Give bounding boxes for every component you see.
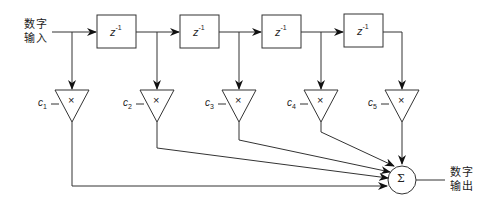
output-label-line1: 数字 xyxy=(450,166,474,180)
sigma-icon: Σ xyxy=(397,172,405,185)
delay-label-2: z-1 xyxy=(193,24,205,38)
delay-label-1: z-1 xyxy=(110,24,122,38)
input-label: 数字 输入 xyxy=(24,18,48,46)
multiply-icon-1: × xyxy=(68,94,74,106)
multiply-icon-5: × xyxy=(398,94,404,106)
output-label: 数字 输出 xyxy=(450,166,474,194)
sum-line-1 xyxy=(72,122,387,186)
coef-label-4: c4 xyxy=(287,97,296,110)
multiply-icon-2: × xyxy=(153,94,159,106)
multiply-icon-4: × xyxy=(317,94,323,106)
coef-label-2: c2 xyxy=(123,97,132,110)
coef-label-3: c3 xyxy=(205,97,214,110)
tap-line-5 xyxy=(383,32,402,89)
input-label-line2: 输入 xyxy=(24,32,48,46)
coef-label-5: c5 xyxy=(368,97,377,110)
sum-line-3 xyxy=(239,122,390,172)
delay-label-3: z-1 xyxy=(275,24,287,38)
sum-line-2 xyxy=(157,122,388,178)
output-label-line2: 输出 xyxy=(450,180,474,194)
coef-label-1: c1 xyxy=(38,97,47,110)
multiply-icon-3: × xyxy=(235,94,241,106)
delay-label-4: z-1 xyxy=(357,23,369,37)
input-label-line1: 数字 xyxy=(24,18,48,32)
